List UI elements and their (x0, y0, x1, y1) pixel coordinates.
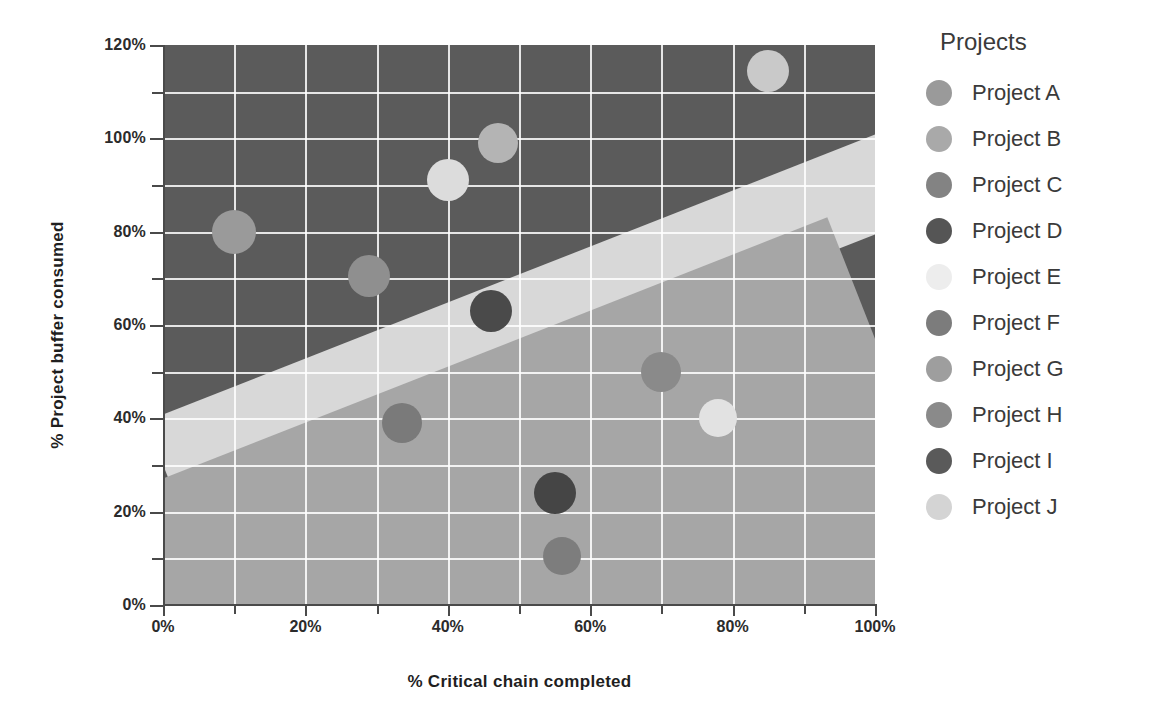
y-axis-tick (152, 465, 163, 467)
x-axis-tick (305, 604, 307, 616)
legend-item-label: Project H (972, 402, 1062, 428)
legend-title: Projects (940, 28, 1162, 56)
y-tick-labels: 0%20%40%60%80%100%120% (0, 0, 146, 728)
legend-marker-icon (926, 80, 952, 106)
legend-item-label: Project I (972, 448, 1053, 474)
legend-item-label: Project J (972, 494, 1058, 520)
legend-item[interactable]: Project C (926, 162, 1162, 208)
data-point[interactable] (470, 290, 512, 332)
legend-item-label: Project A (972, 80, 1060, 106)
y-axis-tick (150, 45, 163, 47)
legend-item[interactable]: Project I (926, 438, 1162, 484)
x-axis-tick (163, 604, 165, 616)
data-point[interactable] (478, 123, 518, 163)
y-axis-tick (152, 278, 163, 280)
x-tick-label: 80% (717, 618, 749, 636)
x-axis-tick (733, 604, 735, 616)
y-axis-tick (152, 372, 163, 374)
legend-item[interactable]: Project B (926, 116, 1162, 162)
legend-marker-icon (926, 310, 952, 336)
x-axis-tick (377, 604, 379, 614)
x-tick-label: 60% (574, 618, 606, 636)
data-point[interactable] (641, 352, 681, 392)
x-axis-tick (590, 604, 592, 616)
legend: Projects Project AProject BProject CProj… (912, 28, 1162, 530)
legend-item[interactable]: Project A (926, 70, 1162, 116)
y-tick-label: 120% (104, 36, 146, 54)
legend-marker-icon (926, 264, 952, 290)
x-axis-tick (448, 604, 450, 616)
legend-item-label: Project F (972, 310, 1060, 336)
x-axis-tick (519, 604, 521, 614)
data-point[interactable] (427, 159, 469, 201)
legend-marker-icon (926, 494, 952, 520)
legend-item[interactable]: Project G (926, 346, 1162, 392)
y-tick-label: 0% (122, 596, 146, 614)
legend-marker-icon (926, 172, 952, 198)
y-tick-label: 100% (104, 129, 146, 147)
legend-item[interactable]: Project F (926, 300, 1162, 346)
legend-marker-icon (926, 356, 952, 382)
y-tick-label: 40% (113, 409, 146, 427)
y-tick-label: 60% (113, 316, 146, 334)
legend-item-label: Project D (972, 218, 1062, 244)
x-tick-label: 100% (855, 618, 896, 636)
legend-marker-icon (926, 448, 952, 474)
legend-item[interactable]: Project H (926, 392, 1162, 438)
data-point[interactable] (212, 210, 256, 254)
y-axis-line (163, 45, 165, 605)
x-axis-tick (804, 604, 806, 614)
x-axis-tick (661, 604, 663, 614)
y-axis-tick (152, 558, 163, 560)
legend-item-label: Project E (972, 264, 1061, 290)
x-tick-label: 40% (432, 618, 464, 636)
y-axis-tick (152, 92, 163, 94)
y-tick-label: 80% (113, 223, 146, 241)
x-tick-label: 0% (151, 618, 174, 636)
y-axis-tick (150, 138, 163, 140)
legend-item-label: Project B (972, 126, 1061, 152)
plot-area (163, 45, 875, 605)
x-axis-tick (234, 604, 236, 614)
data-point[interactable] (534, 472, 576, 514)
legend-item[interactable]: Project J (926, 484, 1162, 530)
data-point[interactable] (543, 537, 581, 575)
legend-marker-icon (926, 218, 952, 244)
y-axis-tick (150, 418, 163, 420)
legend-items: Project AProject BProject CProject DProj… (912, 70, 1162, 530)
y-axis-tick (150, 512, 163, 514)
x-tick-label: 20% (289, 618, 321, 636)
legend-marker-icon (926, 402, 952, 428)
legend-item[interactable]: Project D (926, 208, 1162, 254)
y-axis-tick (152, 185, 163, 187)
x-axis-tick (875, 604, 877, 616)
data-point[interactable] (382, 403, 422, 443)
y-tick-label: 20% (113, 503, 146, 521)
x-axis-title: % Critical chain completed (163, 672, 876, 692)
legend-item[interactable]: Project E (926, 254, 1162, 300)
y-axis-title: % Project buffer consumed (48, 125, 68, 545)
y-axis-tick (150, 325, 163, 327)
data-point[interactable] (699, 399, 737, 437)
plot-background (163, 45, 875, 605)
legend-item-label: Project G (972, 356, 1064, 382)
y-axis-tick (150, 605, 163, 607)
legend-item-label: Project C (972, 172, 1062, 198)
legend-marker-icon (926, 126, 952, 152)
y-axis-tick (150, 232, 163, 234)
data-point[interactable] (747, 50, 789, 92)
data-point[interactable] (348, 255, 390, 297)
